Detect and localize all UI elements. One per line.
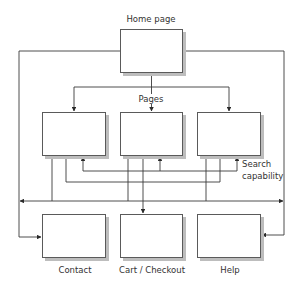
page-box-1 [42, 112, 106, 156]
home-page-box [120, 29, 183, 73]
search-label-line2: capability [242, 170, 283, 182]
search-label-line1: Search [242, 158, 283, 170]
help-box [197, 214, 261, 258]
cart-checkout-box [120, 214, 183, 258]
search-capability-label: Search capability [242, 158, 283, 182]
contact-box [42, 214, 106, 258]
home-page-label: Home page [126, 14, 175, 24]
help-label: Help [220, 265, 239, 275]
cart-checkout-label: Cart / Checkout [119, 265, 185, 275]
site-structure-diagram: Home page Pages Search capability Contac… [0, 0, 298, 296]
pages-label: Pages [136, 94, 165, 104]
page-box-3 [197, 112, 261, 156]
page-box-2 [120, 112, 183, 156]
contact-label: Contact [58, 265, 91, 275]
